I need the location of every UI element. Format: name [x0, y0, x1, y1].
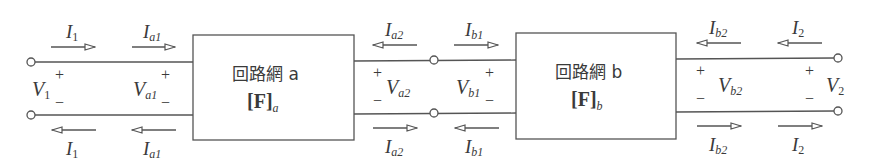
wire-right-bottom — [676, 111, 834, 112]
label-Va2: Va2 — [386, 76, 410, 100]
label-V2: V2 — [826, 74, 844, 98]
label-Ia1-bottom: Ia1 — [142, 138, 161, 161]
label-Ia1-top: Ia1 — [142, 21, 161, 44]
minus-Vb1: − — [485, 92, 494, 109]
label-Vb1: Vb1 — [456, 76, 480, 100]
cascade-two-port-diagram: 回路網 a [F]a 回路網 b [F]b I1 Ia1 Ia2 Ib1 Ib2… — [0, 0, 872, 163]
label-V1: V1 — [32, 78, 50, 102]
plus-Va1: + — [161, 66, 170, 83]
label-Va1: Va1 — [133, 78, 157, 102]
wire-right-top — [676, 58, 834, 59]
minus-Va1: − — [161, 94, 170, 111]
minus-V1: − — [55, 94, 64, 111]
minus-Va2: − — [373, 92, 382, 109]
network-b-matrix: [F]b — [571, 88, 603, 113]
terminal-mid-top — [430, 56, 438, 64]
label-I2-bottom: I2 — [791, 134, 804, 157]
minus-V2: − — [805, 90, 814, 107]
network-a-box — [193, 35, 354, 140]
plus-V2: + — [805, 62, 814, 79]
network-b-box — [516, 33, 676, 139]
label-I1-top: I1 — [65, 21, 78, 44]
label-Ib1-bottom: Ib1 — [464, 136, 483, 159]
label-Ia2-top: Ia2 — [384, 19, 403, 42]
terminal-right-top — [834, 54, 842, 62]
label-Ib2-top: Ib2 — [708, 17, 727, 40]
network-b-name: 回路網 b — [555, 62, 622, 82]
plus-Vb2: + — [696, 62, 705, 79]
minus-Vb2: − — [696, 90, 705, 107]
label-I1-bottom: I1 — [65, 138, 78, 161]
label-I2-top: I2 — [791, 17, 804, 40]
label-Vb2: Vb2 — [718, 74, 742, 98]
label-Ib1-top: Ib1 — [464, 19, 483, 42]
label-Ib2-bottom: Ib2 — [708, 134, 727, 157]
terminal-mid-bottom — [430, 109, 438, 117]
plus-V1: + — [55, 66, 64, 83]
terminal-right-bottom — [834, 107, 842, 115]
network-a-matrix: [F]a — [247, 90, 279, 115]
terminal-left-top — [27, 58, 35, 66]
network-a-name: 回路網 a — [232, 64, 299, 84]
plus-Va2: + — [373, 64, 382, 81]
label-Ia2-bottom: Ia2 — [384, 136, 403, 159]
terminal-left-bottom — [27, 111, 35, 119]
plus-Vb1: + — [485, 64, 494, 81]
